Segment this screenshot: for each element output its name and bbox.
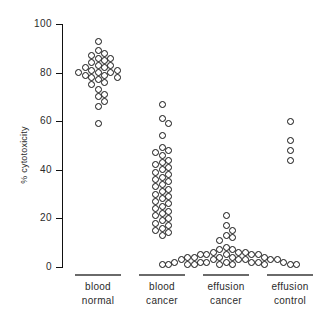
data-point — [152, 227, 159, 234]
data-point — [159, 261, 166, 268]
group-underline — [75, 274, 121, 276]
x-axis-group-label: effusioncontrol — [247, 280, 320, 308]
data-point — [287, 147, 294, 154]
y-axis-tick-label-wrap: 60 — [14, 121, 52, 122]
data-point — [165, 178, 172, 185]
group-label-line2: control — [247, 294, 320, 308]
data-point — [171, 259, 178, 266]
data-point — [216, 246, 223, 253]
data-point — [107, 69, 114, 76]
data-point — [101, 91, 108, 98]
data-point — [165, 147, 172, 154]
data-point — [107, 62, 114, 69]
y-axis-tick — [56, 267, 63, 268]
data-point — [114, 67, 121, 74]
data-point — [287, 157, 294, 164]
data-point — [223, 212, 230, 219]
data-point — [114, 74, 121, 81]
data-point — [191, 261, 198, 268]
group-underline — [139, 274, 185, 276]
y-axis-tick-label-wrap: 40 — [14, 170, 52, 171]
data-point — [152, 212, 159, 219]
dot-column-blood-normal — [67, 24, 129, 267]
group-underline — [267, 274, 313, 276]
data-point — [197, 259, 204, 266]
data-point — [165, 157, 172, 164]
group-underline — [203, 274, 249, 276]
cytotoxicity-dot-plot: % cytotoxicity 020406080100 bloodnormalb… — [0, 0, 320, 316]
data-point — [165, 193, 172, 200]
data-point — [159, 101, 166, 108]
data-point — [107, 55, 114, 62]
group-label-line1: effusion — [247, 280, 320, 294]
data-point — [95, 120, 102, 127]
dot-column-effusion-control — [259, 24, 320, 267]
data-point — [95, 38, 102, 45]
data-point — [101, 79, 108, 86]
data-point — [165, 222, 172, 229]
plot-area — [63, 24, 313, 267]
dot-column-effusion-cancer — [195, 24, 257, 267]
y-axis-tick-label-wrap: 100 — [14, 24, 52, 25]
data-point — [229, 234, 236, 241]
data-point — [216, 254, 223, 261]
data-point — [152, 205, 159, 212]
y-axis-tick-label: 20 — [40, 212, 52, 223]
data-point — [229, 227, 236, 234]
data-point — [165, 120, 172, 127]
y-axis-tick-label: 80 — [40, 67, 52, 78]
y-axis-tick-label: 40 — [40, 164, 52, 175]
data-point — [165, 186, 172, 193]
data-point — [165, 171, 172, 178]
y-axis-tick-label: 100 — [34, 18, 52, 29]
y-axis-label: % cytotoxicity — [19, 95, 29, 215]
data-point — [152, 198, 159, 205]
dot-column-blood-cancer — [131, 24, 193, 267]
data-point — [203, 259, 210, 266]
data-point — [152, 176, 159, 183]
data-point — [216, 261, 223, 268]
data-point — [95, 103, 102, 110]
y-axis-tick-label: 60 — [40, 115, 52, 126]
data-point — [152, 191, 159, 198]
data-point — [159, 152, 166, 159]
y-axis-tick-label: 0 — [46, 261, 52, 272]
data-point — [191, 254, 198, 261]
data-point — [152, 183, 159, 190]
data-point — [152, 161, 159, 168]
data-point — [165, 200, 172, 207]
data-point — [165, 229, 172, 236]
data-point — [101, 98, 108, 105]
y-axis-tick-label-wrap: 20 — [14, 218, 52, 219]
data-point — [159, 232, 166, 239]
data-point — [152, 220, 159, 227]
data-point — [101, 72, 108, 79]
data-point — [159, 203, 166, 210]
data-point — [165, 261, 172, 268]
data-point — [165, 208, 172, 215]
data-point — [229, 261, 236, 268]
data-point — [287, 118, 294, 125]
data-point — [197, 251, 204, 258]
data-point — [184, 254, 191, 261]
data-point — [165, 215, 172, 222]
data-point — [152, 169, 159, 176]
data-point — [88, 81, 95, 88]
data-point — [165, 164, 172, 171]
y-axis-tick-label-wrap: 0 — [14, 267, 52, 268]
data-point — [287, 137, 294, 144]
data-point — [184, 261, 191, 268]
data-point — [216, 237, 223, 244]
y-axis-tick-label-wrap: 80 — [14, 73, 52, 74]
data-point — [159, 132, 166, 139]
